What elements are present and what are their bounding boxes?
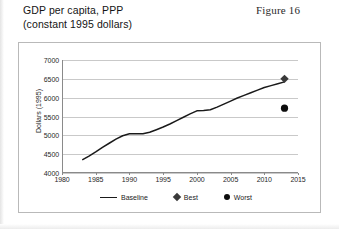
- x-axis-tick-label: 2015: [290, 176, 305, 183]
- x-axis-tick-label: 1995: [156, 176, 171, 183]
- data-point-best: [280, 75, 288, 83]
- legend-label-baseline: Baseline: [121, 194, 148, 201]
- chart-frame: Dollars (1995) 4000450050005500600065007…: [18, 42, 321, 213]
- diamond-marker-icon: [173, 193, 181, 201]
- legend-label-worst: Worst: [234, 194, 252, 201]
- page-edge-shadow-left: [0, 0, 4, 229]
- circle-marker-icon: [224, 194, 230, 200]
- x-axis-tick-label: 1980: [54, 176, 69, 183]
- x-axis-tick-mark: [163, 173, 164, 175]
- y-axis-tick-label: 6500: [44, 75, 59, 82]
- x-axis-tick-label: 1990: [122, 176, 137, 183]
- series-line-baseline: [82, 82, 284, 160]
- x-axis-tick-label: 2005: [223, 176, 238, 183]
- plot-area: 4000450050005500600065007000 19801985199…: [62, 60, 298, 173]
- y-axis-title: Dollars (1995): [35, 89, 42, 133]
- chart-caption-title: GDP per capita, PPP (constant 1995 dolla…: [23, 4, 223, 31]
- gridline: [62, 173, 298, 174]
- y-axis-tick-label: 5000: [44, 132, 59, 139]
- x-axis-tick-mark: [264, 173, 265, 175]
- x-axis-tick-label: 2000: [189, 176, 204, 183]
- x-axis-tick-label: 1985: [88, 176, 103, 183]
- data-point-worst: [281, 105, 288, 112]
- y-axis-tick-label: 5500: [44, 113, 59, 120]
- y-axis-tick-label: 6000: [44, 94, 59, 101]
- page-edge-shadow-bottom: [0, 224, 339, 229]
- chart-legend: Baseline Best Worst: [61, 190, 291, 204]
- x-axis-tick-mark: [96, 173, 97, 175]
- x-axis-tick-mark: [231, 173, 232, 175]
- x-axis-tick-label: 2010: [257, 176, 272, 183]
- legend-label-best: Best: [184, 194, 198, 201]
- figure-number-label: Figure 16: [256, 4, 300, 16]
- x-axis-tick-mark: [129, 173, 130, 175]
- x-axis-tick-mark: [62, 173, 63, 175]
- y-axis-tick-label: 7000: [44, 57, 59, 64]
- y-axis-tick-label: 4500: [44, 151, 59, 158]
- legend-entry-best: Best: [174, 194, 198, 201]
- legend-entry-baseline: Baseline: [100, 194, 148, 201]
- x-axis-tick-mark: [197, 173, 198, 175]
- line-swatch-icon: [100, 197, 117, 198]
- series-plot: [62, 60, 298, 173]
- legend-entry-worst: Worst: [224, 194, 252, 201]
- x-axis-tick-mark: [298, 173, 299, 175]
